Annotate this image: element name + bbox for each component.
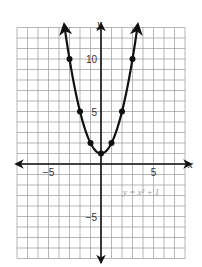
axis-labels: y x y = x² + 1	[96, 17, 193, 197]
data-point	[130, 56, 136, 62]
y-tick-label: 10	[86, 54, 98, 65]
data-point	[77, 109, 83, 115]
data-point	[109, 140, 115, 146]
x-axis-title: x	[187, 158, 193, 170]
y-tick-label: −5	[86, 212, 98, 223]
parabola-chart: y x y = x² + 1 −55105−5	[0, 0, 202, 267]
x-tick-label: 5	[151, 167, 157, 178]
tick-labels: −55105−5	[43, 54, 157, 223]
y-tick-label: 5	[91, 107, 97, 118]
equation-label: y = x² + 1	[122, 187, 159, 197]
data-point	[67, 56, 73, 62]
data-point	[88, 140, 94, 146]
y-axis-title: y	[96, 17, 102, 29]
data-point	[119, 109, 125, 115]
data-point	[98, 151, 104, 157]
x-tick-label: −5	[43, 167, 55, 178]
